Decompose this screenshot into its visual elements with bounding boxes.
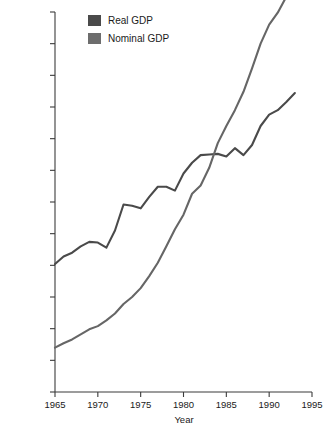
x-tick-label: 1985: [206, 400, 246, 410]
y-axis-title-wrap: Nominal and Real Annual GDP (trillions): [0, 0, 20, 430]
legend-swatch-nominal-gdp: [88, 33, 101, 44]
x-tick-label: 1990: [249, 400, 289, 410]
x-axis-title: Year: [55, 414, 313, 425]
x-tick-label: 1965: [35, 400, 75, 410]
legend-item-nominal-gdp: Nominal GDP: [88, 32, 169, 45]
x-tick-labels: 1965197019751980198519901995: [0, 0, 333, 430]
legend-item-real-gdp: Real GDP: [88, 14, 169, 27]
legend-label-real-gdp: Real GDP: [108, 15, 153, 26]
x-tick-label: 1980: [164, 400, 204, 410]
gdp-line-chart: 0$.5$1.0$1.5$2.0$2.5$3.0$3.5$4.0$4.5$5.0…: [0, 0, 333, 430]
x-tick-label: 1995: [292, 400, 332, 410]
legend-swatch-real-gdp: [88, 15, 101, 26]
x-tick-label: 1970: [78, 400, 118, 410]
chart-legend: Real GDP Nominal GDP: [88, 14, 169, 45]
legend-label-nominal-gdp: Nominal GDP: [108, 33, 169, 44]
x-tick-label: 1975: [121, 400, 161, 410]
